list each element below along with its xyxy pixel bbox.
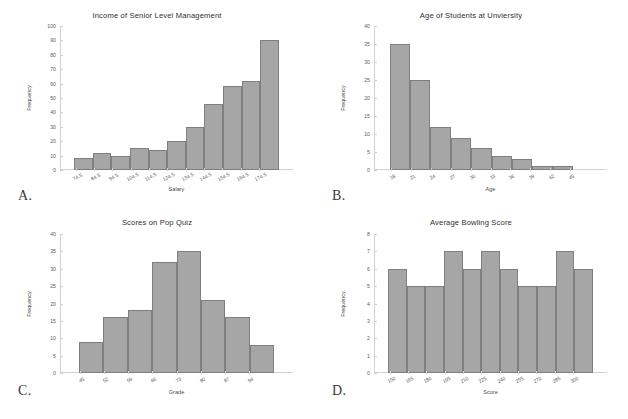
x-tick-label: 66 — [150, 376, 158, 384]
x-tick-label: 144.5 — [198, 171, 212, 182]
x-tick — [201, 371, 202, 374]
x-tick — [177, 371, 178, 374]
y-tick-label: 15 — [364, 113, 374, 119]
histogram-bar — [444, 251, 463, 373]
histogram-bar — [74, 158, 93, 170]
x-tick-label: 270 — [533, 375, 543, 384]
y-tick-label: 0 — [367, 370, 374, 376]
x-tick — [471, 168, 472, 171]
histogram-bar — [407, 286, 426, 373]
chart-title-c: Scores on Pop Quiz — [0, 218, 314, 227]
y-tick-label: 15 — [50, 318, 60, 324]
x-tick — [481, 371, 482, 374]
x-tick — [167, 168, 168, 171]
x-tick-label: 94.5 — [108, 172, 119, 182]
y-tick-label: 4 — [367, 301, 374, 307]
x-tick-label: 285 — [551, 375, 561, 384]
histogram-panel-a: Income of Senior Level Management Freque… — [0, 0, 314, 209]
y-tick-label: 100 — [47, 23, 60, 29]
x-tick-label: 27 — [448, 173, 456, 181]
y-tick-label: 1 — [367, 353, 374, 359]
bars-d — [374, 234, 607, 373]
bars-c — [60, 234, 293, 373]
x-tick-label: 300 — [569, 375, 579, 384]
x-tick — [550, 168, 551, 171]
x-tick-label: 174.5 — [254, 171, 268, 182]
y-axis-label-b: Frequency — [340, 85, 346, 110]
x-tick-label: 39 — [528, 173, 536, 181]
histogram-bar — [225, 317, 249, 373]
y-tick-label: 20 — [364, 95, 374, 101]
x-tick-label: 36 — [508, 173, 516, 181]
histogram-panel-d: Average Bowling Score Frequency Score 01… — [314, 200, 628, 409]
x-tick — [500, 371, 501, 374]
x-tick — [94, 168, 95, 171]
histogram-bar — [177, 251, 201, 373]
x-tick — [431, 168, 432, 171]
plot-area-c: Frequency Grade 051015202530354045525966… — [60, 234, 293, 373]
histogram-bar — [556, 251, 575, 373]
y-tick-label: 40 — [364, 23, 374, 29]
histogram-bar — [260, 40, 279, 170]
x-tick-label: 18 — [388, 173, 396, 181]
histogram-bar — [500, 269, 519, 373]
histogram-bar — [93, 153, 112, 170]
y-tick-label: 25 — [50, 283, 60, 289]
x-tick — [222, 168, 223, 171]
histogram-bar — [463, 269, 482, 373]
x-tick — [204, 168, 205, 171]
histogram-bar — [204, 104, 223, 170]
x-tick-label: 150 — [386, 375, 396, 384]
x-tick-label: 165 — [404, 375, 414, 384]
x-tick — [225, 371, 226, 374]
x-tick-label: 195 — [441, 375, 451, 384]
x-tick-label: 240 — [496, 375, 506, 384]
x-tick-label: 45 — [78, 376, 86, 384]
histogram-bar — [186, 127, 205, 170]
y-tick-label: 40 — [50, 231, 60, 237]
x-tick-label: 42 — [548, 173, 556, 181]
histogram-bar — [201, 300, 225, 373]
x-axis-label-a: Salary — [60, 186, 293, 192]
x-tick-label: 154.5 — [217, 171, 231, 182]
x-tick — [186, 168, 187, 171]
histogram-bar — [167, 141, 186, 170]
y-tick-label: 30 — [50, 124, 60, 130]
x-tick-label: 45 — [568, 173, 576, 181]
y-tick-label: 6 — [367, 266, 374, 272]
x-tick-label: 74.5 — [71, 172, 82, 182]
chart-title-b: Age of Students at Unviersity — [314, 11, 628, 20]
x-tick — [80, 371, 81, 374]
x-tick — [451, 168, 452, 171]
x-tick — [249, 371, 250, 374]
y-tick-label: 30 — [50, 266, 60, 272]
y-tick-label: 5 — [53, 353, 60, 359]
x-tick — [152, 371, 153, 374]
y-tick-label: 5 — [367, 149, 374, 155]
x-tick-label: 30 — [468, 173, 476, 181]
y-axis-label-d: Frequency — [340, 291, 346, 316]
x-tick-label: 33 — [488, 173, 496, 181]
bars-a — [60, 26, 293, 170]
x-tick-label: 73 — [174, 376, 182, 384]
histogram-bar — [574, 269, 593, 373]
histogram-bar — [518, 286, 537, 373]
x-tick-label: 94 — [246, 376, 254, 384]
x-tick — [555, 371, 556, 374]
y-tick-label: 70 — [50, 66, 60, 72]
x-tick-label: 80 — [198, 376, 206, 384]
histogram-bar — [451, 138, 471, 170]
histogram-bar — [152, 262, 176, 373]
plot-area-b: Frequency Age 05101520253035401821242730… — [374, 26, 607, 170]
x-tick — [131, 168, 132, 171]
x-tick-label: 180 — [423, 375, 433, 384]
y-tick-label: 2 — [367, 335, 374, 341]
x-tick-label: 164.5 — [235, 171, 249, 182]
x-tick — [390, 371, 391, 374]
chart-title-d: Average Bowling Score — [314, 218, 628, 227]
x-tick-label: 124.5 — [162, 171, 176, 182]
x-tick-label: 134.5 — [180, 171, 194, 182]
y-tick-label: 35 — [364, 41, 374, 47]
histogram-panel-b: Age of Students at Unviersity Frequency … — [314, 0, 628, 209]
histogram-bar — [149, 150, 168, 170]
